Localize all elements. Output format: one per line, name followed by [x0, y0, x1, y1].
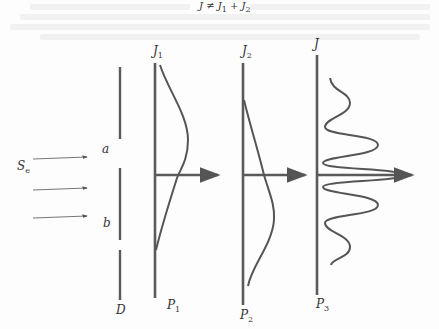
source-label: Se	[17, 160, 30, 175]
wave-arrow-icon	[33, 216, 87, 218]
diagram-svg	[0, 0, 439, 329]
wave-arrow-icon	[33, 188, 87, 190]
intensity-curve-j2	[244, 100, 274, 286]
j1-label: J1	[153, 45, 163, 60]
j2-label: J2	[242, 45, 252, 60]
screen-p2	[243, 63, 305, 305]
p2-label: P2	[240, 309, 253, 324]
wave-arrow-icon	[33, 157, 87, 159]
p1-label: P1	[167, 299, 180, 314]
slit-b-label: b	[103, 217, 111, 229]
screen-p3	[317, 55, 412, 295]
p3-label: P3	[316, 298, 329, 313]
equation-title: J ≠ J1 + J2	[199, 1, 251, 14]
incident-wave-arrows	[33, 157, 87, 218]
interference-curve-j	[323, 78, 402, 265]
j-label: J	[314, 38, 319, 53]
diagram-canvas: J ≠ J1 + J2 Se a b D J1 J2 J P1 P2 P3	[0, 0, 439, 329]
slit-a-label: a	[102, 143, 109, 155]
barrier-d-label: D	[116, 304, 126, 316]
intensity-curve-j1	[156, 65, 188, 250]
screen-p1	[155, 63, 218, 298]
